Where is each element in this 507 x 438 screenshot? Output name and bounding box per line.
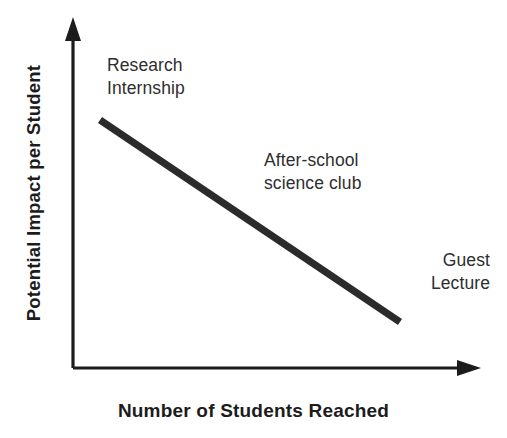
x-axis (73, 360, 481, 376)
annotation-guest-lecture: Guest Lecture (431, 249, 490, 295)
y-axis-title: Potential Impact per Student (19, 8, 49, 378)
y-axis (65, 17, 81, 368)
y-axis-arrowhead-icon (65, 17, 81, 41)
chart-plot-area (0, 0, 507, 438)
x-axis-arrowhead-icon (457, 360, 481, 376)
annotation-after-school-science-club: After-school science club (264, 149, 362, 195)
chart-figure: Research Internship After-school science… (0, 0, 507, 438)
x-axis-title: Number of Students Reached (0, 400, 507, 422)
annotation-research-internship: Research Internship (107, 54, 185, 100)
